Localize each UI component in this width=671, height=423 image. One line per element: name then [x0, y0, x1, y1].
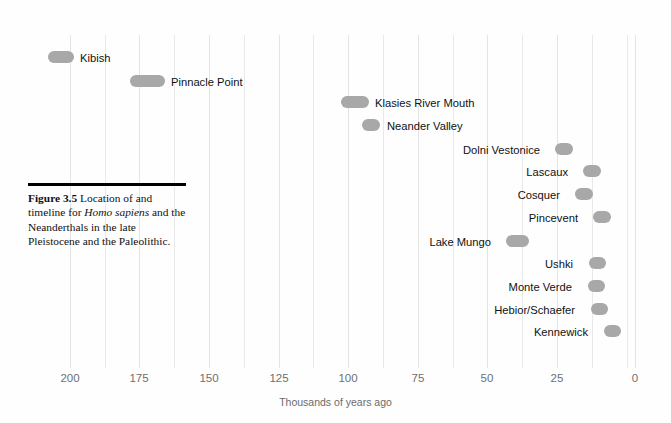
gridline: [557, 35, 558, 368]
timeline-bar: [341, 96, 369, 108]
timeline-bar: [48, 51, 74, 63]
gridline: [244, 35, 245, 368]
timeline-bar-label: Dolni Vestonice: [463, 144, 540, 156]
x-axis-tick-label: 0: [615, 372, 655, 384]
gridline: [279, 35, 280, 368]
x-axis-tick-label: 50: [467, 372, 507, 384]
gridline: [522, 35, 523, 368]
timeline-bar: [604, 325, 621, 337]
timeline-bar-label: Neander Valley: [387, 120, 463, 132]
timeline-bar-label: Kennewick: [534, 326, 588, 338]
timeline-bar: [583, 165, 601, 177]
figure-caption: Figure 3.5 Location of and timeline for …: [28, 183, 188, 249]
gridline: [453, 35, 454, 368]
x-axis-tick-label: 100: [328, 372, 368, 384]
x-axis-tick-label: 25: [537, 372, 577, 384]
gridline: [418, 35, 419, 368]
caption-line-1: Location of and: [80, 192, 152, 204]
gridline: [383, 35, 384, 368]
gridline: [592, 35, 593, 368]
caption-figure-number: Figure 3.5: [28, 192, 77, 204]
gridline: [348, 35, 349, 368]
timeline-bar-label: Lake Mungo: [429, 236, 491, 248]
caption-line-4: Pleistocene and the Paleolithic.: [28, 235, 170, 247]
timeline-bar-label: Kibish: [80, 52, 110, 64]
caption-line-2-post: and: [149, 206, 168, 218]
x-axis-tick-label: 175: [119, 372, 159, 384]
caption-text: Figure 3.5 Location of and timeline for …: [28, 191, 188, 249]
timeline-bar-label: Lascaux: [526, 166, 568, 178]
timeline-bar: [591, 303, 608, 315]
timeline-bar: [555, 143, 573, 155]
timeline-bar: [588, 280, 605, 292]
timeline-bar-label: Klasies River Mouth: [375, 97, 474, 109]
timeline-bar-label: Ushki: [545, 258, 573, 270]
timeline-bar: [362, 119, 380, 131]
timeline-bar: [593, 211, 611, 223]
caption-species-italic: Homo sapiens: [84, 206, 149, 218]
timeline-bar: [506, 235, 529, 247]
timeline-bar: [130, 75, 165, 87]
timeline-bar-label: Hebior/Schaefer: [494, 304, 575, 316]
gridline: [627, 35, 628, 368]
caption-rule-divider: [28, 183, 186, 186]
x-axis-title: Thousands of years ago: [0, 396, 671, 408]
gridline: [313, 35, 314, 368]
figure-container: KibishPinnacle PointKlasies River MouthN…: [0, 0, 671, 423]
x-axis-tick-label: 200: [50, 372, 90, 384]
x-axis-tick-label: 75: [398, 372, 438, 384]
timeline-bar: [589, 257, 606, 269]
x-axis-tick-label: 125: [259, 372, 299, 384]
x-axis-tick-label: 150: [189, 372, 229, 384]
timeline-bar: [575, 188, 593, 200]
timeline-bar-label: Pinnacle Point: [171, 76, 243, 88]
caption-line-2-pre: timeline for: [28, 206, 84, 218]
timeline-bar-label: Pincevent: [529, 212, 578, 224]
timeline-bar-label: Monte Verde: [509, 281, 572, 293]
timeline-bar-label: Cosquer: [518, 189, 560, 201]
gridline: [487, 35, 488, 368]
gridline: [635, 35, 636, 368]
